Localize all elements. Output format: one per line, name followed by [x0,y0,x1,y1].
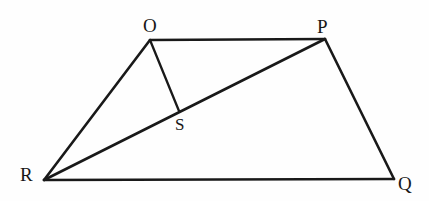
segment-RP [44,39,325,180]
geometry-figure: O P Q R S [0,0,429,201]
vertex-label-Q: Q [398,174,412,193]
segment-RO [44,40,150,180]
vertex-label-P: P [317,17,328,36]
vertex-label-O: O [143,16,157,35]
segment-OP [150,39,325,40]
vertex-label-S: S [175,116,185,133]
segment-PQ [325,39,394,179]
segment-OS [150,40,179,111]
vertex-label-R: R [20,165,33,184]
figure-canvas [0,0,429,201]
segment-QR [44,179,394,180]
